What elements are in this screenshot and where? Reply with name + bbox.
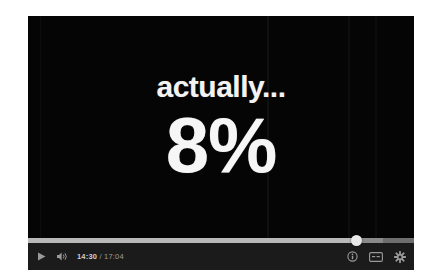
play-icon[interactable] bbox=[36, 251, 47, 262]
control-left-group: 14:30 / 17:04 bbox=[36, 251, 124, 262]
video-player[interactable]: actually... 8% bbox=[28, 16, 414, 270]
control-right-group bbox=[347, 251, 406, 263]
settings-gear-icon[interactable] bbox=[394, 251, 406, 263]
control-row: 14:30 / 17:04 bbox=[28, 243, 414, 270]
slide-headline: actually... bbox=[156, 72, 285, 102]
total-time: 17:04 bbox=[104, 252, 124, 261]
player-control-bar[interactable]: 14:30 / 17:04 bbox=[28, 238, 414, 270]
closed-captions-icon[interactable] bbox=[369, 252, 383, 262]
time-separator: / bbox=[99, 252, 101, 261]
slide-statistic: 8% bbox=[166, 108, 277, 182]
timecode-display: 14:30 / 17:04 bbox=[77, 252, 124, 261]
volume-icon[interactable] bbox=[56, 251, 68, 262]
current-time: 14:30 bbox=[77, 252, 97, 261]
video-slide-content: actually... 8% bbox=[28, 16, 414, 238]
info-icon[interactable] bbox=[347, 251, 358, 262]
